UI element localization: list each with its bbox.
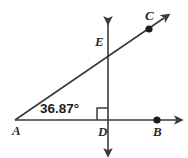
point-label-D: D bbox=[97, 124, 108, 139]
point-label-B: B bbox=[152, 124, 162, 139]
geometry-canvas: A B C D E 36.87° bbox=[0, 0, 188, 158]
right-angle-marker bbox=[97, 108, 108, 120]
ray-AC bbox=[15, 18, 164, 120]
point-dots bbox=[145, 25, 160, 123]
point-label-E: E bbox=[94, 34, 104, 49]
geometry-figure: A B C D E 36.87° bbox=[0, 0, 188, 158]
angle-measure-label: 36.87° bbox=[40, 101, 79, 116]
point-label-C: C bbox=[145, 8, 154, 23]
point-dot-B bbox=[153, 116, 160, 123]
point-label-A: A bbox=[11, 123, 21, 138]
point-dot-C bbox=[145, 25, 152, 32]
